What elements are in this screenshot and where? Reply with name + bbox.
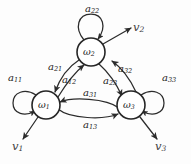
edge-label-a23: a23 [103, 76, 117, 87]
edge-label-a21: a21 [48, 62, 62, 73]
edge-a13 [58, 109, 118, 118]
edge-label-a11: a11 [8, 73, 22, 84]
node-label-w1: ω1 [38, 100, 50, 110]
output-arrow-v3 [140, 117, 157, 139]
output-label-v3: v3 [155, 141, 166, 153]
edge-a22-self-loop [78, 14, 103, 40]
node-label-w3: ω3 [123, 100, 135, 110]
output-label-v2: v2 [133, 22, 144, 34]
edge-label-a33: a33 [162, 73, 176, 84]
edge-label-a32: a32 [118, 64, 132, 75]
output-arrow-v1 [23, 117, 38, 139]
edge-label-a12: a12 [62, 75, 76, 86]
output-label-v1: v1 [12, 141, 23, 153]
output-arrow-v2 [103, 28, 131, 44]
edge-label-a13: a13 [83, 120, 97, 131]
hmm-state-transition-diagram: ω1 ω2 ω3 a22 a11 a33 a21 a12 a32 a23 a31… [0, 0, 191, 164]
edge-label-a22: a22 [85, 4, 99, 15]
edge-a31 [60, 99, 119, 108]
node-label-w2: ω2 [83, 47, 95, 57]
edge-label-a31: a31 [83, 88, 97, 99]
